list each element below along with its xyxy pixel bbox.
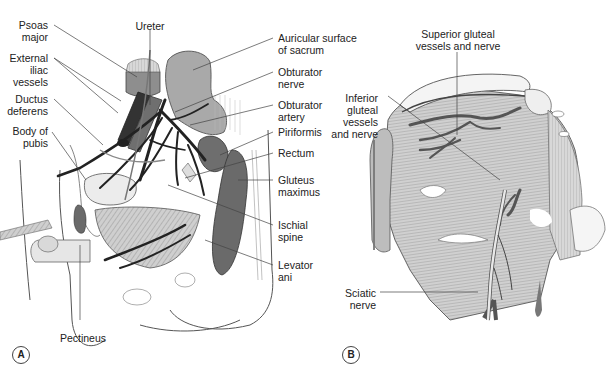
label-ischial-spine: Ischial spine [278,219,308,243]
label-psoas-major: Psoas major [10,19,48,43]
label-ureter: Ureter [130,20,170,32]
label-sciatic-nerve: Sciatic nerve [340,287,376,311]
label-gluteus-maximus: Gluteus maximus [278,174,320,198]
label-inferior-gluteal-vessels-nerve: Inferior gluteal vessels and nerve [330,92,378,140]
label-auricular-surface-sacrum: Auricular surface of sacrum [278,32,357,56]
panel-label-a: A [12,346,30,364]
panel-b-illustration [370,52,605,320]
label-piriformis: Piriformis [278,126,322,138]
anatomy-figure: Psoas major External iliac vessels Ductu… [0,0,611,380]
panel-label-b: B [342,346,360,364]
label-levator-ani: Levator ani [278,259,313,283]
label-obturator-artery: Obturator artery [278,99,322,123]
label-superior-gluteal-vessels-nerve: Superior gluteal vessels and nerve [412,28,504,52]
label-body-of-pubis: Body of pubis [5,125,48,149]
label-external-iliac-vessels: External iliac vessels [5,52,48,88]
label-obturator-nerve: Obturator nerve [278,66,322,90]
label-rectum: Rectum [278,147,314,159]
label-pectineus: Pectineus [58,332,108,344]
label-ductus-deferens: Ductus deferens [2,93,48,117]
